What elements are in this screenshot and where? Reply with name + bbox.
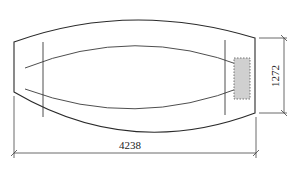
diagram-canvas: 4238 1272 bbox=[0, 0, 298, 169]
height-label: 1272 bbox=[269, 65, 281, 87]
width-label: 4238 bbox=[119, 139, 142, 151]
outer-outline bbox=[14, 20, 255, 132]
shaded-region bbox=[234, 58, 250, 99]
lower-inner-arc bbox=[25, 86, 245, 109]
upper-inner-arc bbox=[25, 46, 245, 68]
